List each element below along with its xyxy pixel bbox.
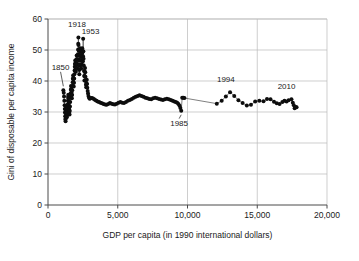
scatter-plot: 010203040506005,00010,00015,00020,000 18…	[0, 0, 359, 261]
annotations: 185019181953198519942010	[52, 20, 296, 128]
svg-text:1850: 1850	[52, 63, 70, 72]
svg-text:5,000: 5,000	[107, 210, 129, 220]
x-axis-title: GDP per capita (in 1990 international do…	[103, 230, 273, 240]
svg-text:10: 10	[33, 169, 43, 179]
svg-text:20,000: 20,000	[314, 210, 340, 220]
svg-text:1994: 1994	[217, 75, 235, 84]
svg-text:0: 0	[46, 210, 51, 220]
y-axis-title: Gini of disposable per capita income	[6, 43, 16, 180]
chart-figure: 010203040506005,00010,00015,00020,000 18…	[0, 0, 359, 261]
svg-text:20: 20	[33, 138, 43, 148]
svg-text:60: 60	[33, 14, 43, 24]
axis-ticks	[45, 19, 328, 209]
svg-text:15,000: 15,000	[244, 210, 270, 220]
svg-text:2010: 2010	[278, 82, 296, 91]
gridlines	[48, 19, 327, 205]
svg-text:10,000: 10,000	[175, 210, 201, 220]
svg-text:30: 30	[33, 107, 43, 117]
svg-text:1953: 1953	[82, 27, 100, 36]
svg-text:0: 0	[37, 200, 42, 210]
svg-text:50: 50	[33, 45, 43, 55]
svg-text:40: 40	[33, 76, 43, 86]
svg-text:1985: 1985	[170, 119, 188, 128]
data-series	[61, 36, 298, 124]
